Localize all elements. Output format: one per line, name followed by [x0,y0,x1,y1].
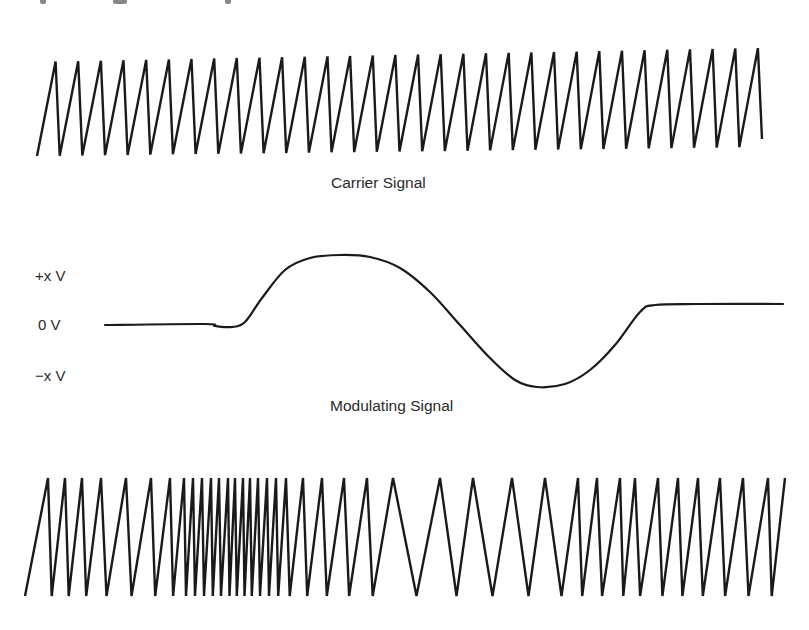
carrier-signal-waveform [37,48,762,156]
negative-voltage-label: −x V [35,367,65,384]
fm-output-waveform [25,478,785,596]
fm-diagram [0,0,809,630]
modulating-signal-caption: Modulating Signal [330,397,453,415]
modulating-signal-waveform [105,255,783,387]
carrier-signal-caption: Carrier Signal [331,174,426,192]
positive-voltage-label: +x V [35,267,65,284]
zero-voltage-label: 0 V [38,316,61,333]
